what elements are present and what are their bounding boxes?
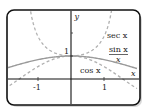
chart: y x 1 -1 1 sec x sin x x cos x xyxy=(0,0,148,110)
cos-label: cos x xyxy=(80,66,101,75)
sinc-numerator-label: sin x xyxy=(109,45,128,54)
x-tick-label-neg1: -1 xyxy=(33,83,41,92)
y-axis-label: y xyxy=(74,12,80,21)
y-one-label: 1 xyxy=(64,47,69,56)
sec-label: sec x xyxy=(107,31,128,40)
sinc-denominator-label: x xyxy=(116,55,121,64)
x-tick-label-pos1: 1 xyxy=(102,83,107,92)
x-axis-label: x xyxy=(131,69,136,78)
